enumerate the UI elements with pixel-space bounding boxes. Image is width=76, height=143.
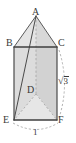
vertex-label-E: E [3, 115, 9, 125]
geometry-figure: A B C D E F √3 1 [0, 0, 76, 143]
vertex-label-A: A [32, 7, 39, 17]
vertex-label-D: D [27, 85, 34, 95]
geometry-svg [0, 0, 76, 143]
radicand: 3 [64, 76, 70, 86]
measurement-label-slant: √3 [58, 76, 69, 86]
vertex-label-C: C [58, 38, 65, 48]
measurement-label-base: 1 [33, 128, 38, 137]
vertex-label-F: F [58, 115, 64, 125]
vertex-label-B: B [6, 38, 13, 48]
